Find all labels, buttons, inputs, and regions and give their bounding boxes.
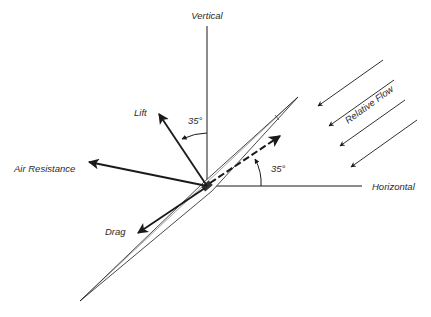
attack-angle-label: 35° [271, 163, 286, 174]
javelin-force-diagram: Vertical Horizontal Lift Air Resistance … [0, 0, 431, 317]
horizontal-label: Horizontal [372, 181, 416, 192]
relative-flow-label: Relative Flow [343, 83, 397, 126]
air-resistance-label: Air Resistance [13, 163, 75, 174]
relative-flow-arrows [318, 60, 417, 167]
lift-angle-label: 35° [188, 115, 203, 126]
drag-label: Drag [105, 226, 126, 237]
air-resistance-arrow [89, 162, 207, 186]
vertical-label: Vertical [191, 10, 223, 21]
flow-arrow-4 [351, 120, 417, 167]
javelin-direction-arrow [210, 136, 280, 183]
drag-arrow [138, 188, 205, 233]
lift-label: Lift [134, 107, 147, 118]
attack-angle-arc [255, 159, 261, 186]
lift-angle-arc [182, 133, 207, 139]
